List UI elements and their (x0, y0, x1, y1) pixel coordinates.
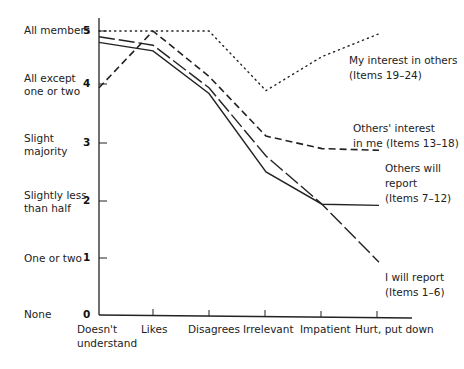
y-tick-1: 1 (83, 251, 90, 263)
series-my-interest-in-others (99, 31, 379, 91)
x-label-doesnt-understand: Doesn't understand (77, 322, 137, 350)
x-label-disagrees: Disagrees (188, 322, 240, 336)
series-label-line: (Items 7–12) (385, 191, 451, 206)
series-label-others-will-report: Others will report (Items 7–12) (385, 161, 451, 206)
series-label-my-interest: My interest in others (Items 19–24) (349, 53, 458, 83)
series-label-line: My interest in others (349, 53, 458, 68)
x-ticks (153, 309, 377, 318)
y-tick-2: 2 (83, 194, 90, 206)
y-label-line: than half (24, 202, 87, 215)
y-label-line: one or two (24, 85, 80, 98)
series-label-line: in me (Items 13–18) (353, 136, 459, 151)
x-label-likes: Likes (141, 322, 167, 336)
series-label-line: Others' interest (353, 121, 459, 136)
series-label-line: report (385, 176, 451, 191)
x-axis (99, 315, 412, 318)
y-label-line: majority (24, 145, 68, 158)
x-label-line: understand (77, 336, 137, 350)
series-i-will-report (99, 37, 379, 263)
y-label-none: None (24, 308, 51, 321)
y-tick-3: 3 (83, 136, 90, 148)
y-label-all-members: All members (24, 24, 90, 37)
y-tick-0: 0 (83, 308, 90, 320)
series-label-line: (Items 19–24) (349, 68, 458, 83)
x-label-line: Doesn't (77, 322, 137, 336)
y-label-line: Slight (24, 132, 68, 145)
series-label-line: (Items 1–6) (385, 285, 445, 300)
series-label-line: I will report (385, 270, 445, 285)
y-tick-4: 4 (83, 77, 90, 89)
x-label-impatient: Impatient (300, 322, 351, 336)
series-label-others-interest: Others' interest in me (Items 13–18) (353, 121, 459, 151)
x-label-hurt-put-down: Hurt, put down (355, 322, 434, 336)
y-label-slight-majority: Slight majority (24, 132, 68, 158)
y-label-all-except: All except one or two (24, 72, 80, 98)
series-label-i-will-report: I will report (Items 1–6) (385, 270, 445, 300)
y-ticks (99, 31, 107, 258)
y-label-line: All except (24, 72, 80, 85)
y-label-line: Slightly less (24, 189, 87, 202)
y-tick-5: 5 (83, 24, 90, 36)
y-label-slightly-less-than-half: Slightly less than half (24, 189, 87, 215)
y-label-one-or-two: One or two (24, 252, 82, 265)
x-label-irrelevant: Irrelevant (243, 322, 294, 336)
series-label-line: Others will (385, 161, 451, 176)
